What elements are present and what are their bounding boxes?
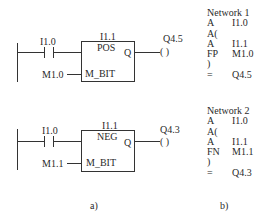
box-output-pin: Q [124,138,131,148]
contact-label: I1.0 [42,126,58,136]
stl-line: FNM1.1 [207,147,253,157]
stl-network-2: Network 2 AI1.0 A( AI1.1 FNM1.1 ) =Q4.3 [207,106,253,178]
stl-op: = [207,70,232,80]
output-coil: ( ) [160,137,169,147]
stl-operand: Q4.3 [232,167,252,178]
output-coil: ( ) [160,47,169,57]
box-output-pin: Q [124,48,131,58]
figure-caption-b: b) [220,201,228,211]
stl-operand: I1.0 [232,17,248,28]
stl-line: =Q4.3 [207,168,253,178]
box-function-label: NEG [97,132,118,142]
stl-operand: I1.0 [232,115,248,126]
box-input-pin: M_BIT [85,69,115,79]
box-input-pin: M_BIT [86,158,116,168]
coil-label: Q4.3 [160,125,180,135]
stl-line: FPM1.0 [207,49,253,59]
stl-operand: M1.0 [232,48,253,59]
coil-label: Q4.5 [163,34,183,44]
contact-label: I1.0 [40,37,56,47]
stl-op: FN [207,147,232,157]
box-address-label: I1.1 [102,121,118,131]
m-bit-operand: M1.1 [42,159,63,169]
box-function-label: POS [97,43,115,53]
figure-caption-a: a) [90,201,98,211]
m-bit-operand: M1.0 [42,70,63,80]
box-address-label: I1.1 [100,32,116,42]
stl-operand: M1.1 [232,146,253,157]
stl-operand: Q4.5 [232,69,252,80]
stl-op: FP [207,49,232,59]
stl-line: =Q4.5 [207,70,253,80]
stl-op: = [207,168,232,178]
stl-network-1: Network 1 AI1.0 A( AI1.1 FPM1.0 ) =Q4.5 [207,8,253,80]
